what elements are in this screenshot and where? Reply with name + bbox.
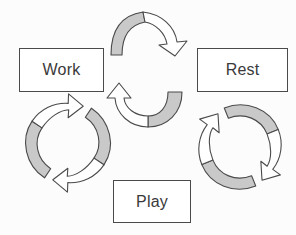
center-arrow-white-head [107,83,148,127]
top-arrow-group [111,12,187,56]
node-label-work: Work [43,62,81,78]
diagram-canvas: Work Rest Play [0,0,296,235]
left-cycle-group [10,85,127,202]
node-box-play[interactable]: Play [113,180,191,223]
center-arrow-gray-band [148,92,182,127]
top-arrow-gray-band [111,12,145,55]
top-arrow-white-head [143,12,187,56]
center-arrow-group [107,83,182,127]
node-box-work[interactable]: Work [19,48,104,92]
node-label-rest: Rest [226,62,260,78]
left-cycle-arrow-b-gray [10,121,67,178]
right-cycle-arrow-b-white [186,112,234,165]
right-cycle-group [185,92,294,201]
right-cycle-arrow-a-white [247,129,295,182]
node-label-play: Play [136,194,168,210]
node-box-rest[interactable]: Rest [197,48,288,92]
left-cycle-arrow-a-gray [69,108,126,165]
